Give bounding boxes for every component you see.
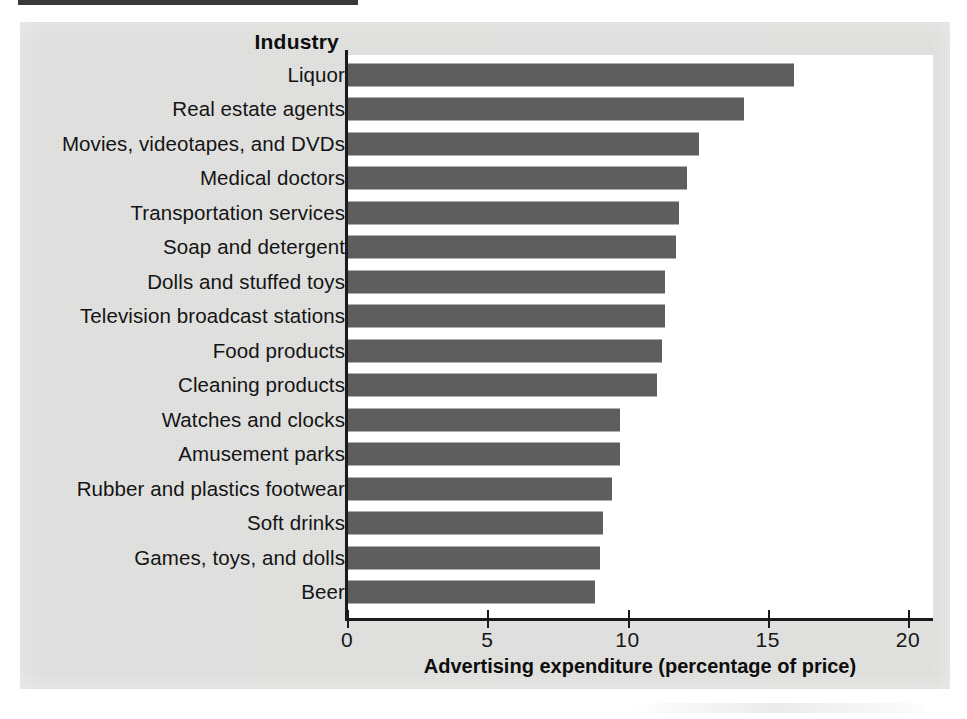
category-label: Beer — [301, 580, 345, 604]
x-axis-tick — [908, 610, 910, 628]
x-axis-tick-label: 5 — [481, 628, 493, 652]
bar — [348, 546, 600, 569]
bar-row: Liquor — [0, 58, 967, 91]
category-label: Movies, videotapes, and DVDs — [62, 132, 345, 156]
category-label: Rubber and plastics footwear — [77, 477, 345, 501]
bar-row: Transportation services — [0, 196, 967, 229]
bar — [348, 132, 699, 155]
y-axis-line — [345, 50, 348, 620]
category-label: Liquor — [287, 63, 345, 87]
x-axis-line — [345, 618, 933, 621]
bar-row: Soft drinks — [0, 507, 967, 540]
category-label: Dolls and stuffed toys — [147, 270, 345, 294]
category-label: Watches and clocks — [162, 408, 345, 432]
x-axis-tick — [628, 610, 630, 628]
bar — [348, 581, 595, 604]
category-label: Soap and detergent — [163, 235, 345, 259]
bar — [348, 443, 620, 466]
bar-row: Soap and detergent — [0, 231, 967, 264]
category-label: Medical doctors — [200, 166, 345, 190]
bar-row: Watches and clocks — [0, 403, 967, 436]
x-axis-tick-label: 10 — [615, 628, 639, 652]
bar-row: Beer — [0, 576, 967, 609]
bar — [348, 236, 676, 259]
bar-row: Medical doctors — [0, 162, 967, 195]
scan-bottom-margin — [0, 689, 967, 719]
advertising-expenditure-figure: Industry LiquorReal estate agentsMovies,… — [0, 0, 967, 719]
x-axis-tick — [347, 610, 349, 628]
bar-row: Rubber and plastics footwear — [0, 472, 967, 505]
bar — [348, 305, 665, 328]
bar — [348, 167, 687, 190]
category-label: Games, toys, and dolls — [134, 546, 345, 570]
category-label: Amusement parks — [178, 442, 345, 466]
category-label: Food products — [213, 339, 345, 363]
bar — [348, 374, 657, 397]
bar-row: Real estate agents — [0, 93, 967, 126]
bar — [348, 63, 794, 86]
bar-row: Food products — [0, 334, 967, 367]
x-axis-tick-label: 20 — [896, 628, 920, 652]
x-axis-tick-label: 0 — [341, 628, 353, 652]
x-axis-tick — [487, 610, 489, 628]
bar — [348, 98, 744, 121]
bar-row: Television broadcast stations — [0, 300, 967, 333]
scan-smudge — [627, 703, 927, 713]
bar-row: Amusement parks — [0, 438, 967, 471]
bar-row: Cleaning products — [0, 369, 967, 402]
x-axis-title: Advertising expenditure (percentage of p… — [424, 655, 856, 678]
column-header-industry: Industry — [255, 30, 339, 54]
category-label: Cleaning products — [178, 373, 345, 397]
bar — [348, 201, 679, 224]
scan-artifact-top — [18, 0, 358, 5]
bar-row: Dolls and stuffed toys — [0, 265, 967, 298]
x-axis-tick — [768, 610, 770, 628]
category-label: Transportation services — [130, 201, 345, 225]
bar-row: Games, toys, and dolls — [0, 541, 967, 574]
x-axis-tick-label: 15 — [756, 628, 780, 652]
bar — [348, 270, 665, 293]
bar — [348, 339, 662, 362]
bar — [348, 408, 620, 431]
category-label: Television broadcast stations — [80, 304, 345, 328]
category-label: Real estate agents — [172, 97, 345, 121]
bar — [348, 477, 612, 500]
bar — [348, 512, 603, 535]
category-label: Soft drinks — [247, 511, 345, 535]
bar-row: Movies, videotapes, and DVDs — [0, 127, 967, 160]
